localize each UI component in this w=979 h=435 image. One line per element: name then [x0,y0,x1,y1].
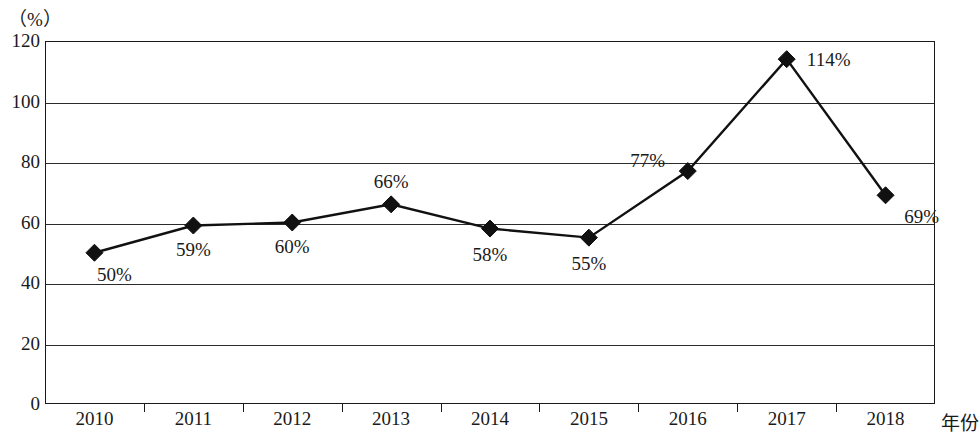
data-point-marker [86,244,103,261]
data-point-label: 55% [571,253,606,275]
data-point-label: 58% [473,244,508,266]
data-point-marker [482,220,499,237]
data-point-marker [580,229,597,246]
data-point-label: 77% [630,150,665,172]
data-point-label: 50% [97,264,132,286]
data-point-label: 69% [904,206,939,228]
data-point-marker [284,214,301,231]
data-point-marker [877,187,894,204]
data-point-label: 114% [807,49,851,71]
data-point-marker [383,196,400,213]
data-point-label: 66% [374,171,409,193]
data-point-marker [185,217,202,234]
data-point-label: 60% [275,236,310,258]
data-point-label: 59% [176,239,211,261]
